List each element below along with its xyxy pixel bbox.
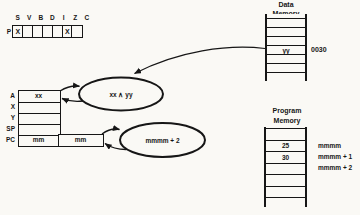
memory-rung bbox=[267, 63, 305, 64]
flag-name-c: C bbox=[81, 14, 93, 21]
arrow-and-to-a bbox=[62, 99, 83, 102]
memory-rung bbox=[266, 174, 305, 175]
data-memory-ladder: yy bbox=[265, 14, 307, 81]
register-label-a: A bbox=[0, 92, 15, 99]
program-memory-address-1: mmmm + 1 bbox=[318, 153, 352, 160]
memory-rung bbox=[266, 151, 305, 152]
register-pc-low: mm bbox=[59, 136, 102, 143]
pc-increment-label: mmmm + 2 bbox=[120, 137, 205, 144]
flag-name-s: S bbox=[12, 14, 24, 21]
register-label-y: Y bbox=[0, 114, 15, 121]
memory-rung bbox=[266, 197, 305, 198]
program-memory-cell-operand: 30 bbox=[266, 154, 305, 161]
memory-rung bbox=[267, 54, 305, 55]
memory-rung bbox=[267, 72, 305, 73]
flag-name-v: V bbox=[24, 14, 36, 21]
and-operation-label: xx ∧ yy bbox=[79, 91, 163, 98]
flag-name-d: D bbox=[47, 14, 59, 21]
program-memory-address-0: mmmm bbox=[318, 142, 341, 149]
register-label-pc: PC bbox=[0, 136, 15, 143]
flag-cell-c bbox=[71, 25, 83, 38]
data-memory-address: 0030 bbox=[311, 46, 337, 54]
arrow-pc-to-increment bbox=[102, 129, 120, 134]
flag-name-z: Z bbox=[70, 14, 82, 21]
arrow-increment-to-pc bbox=[105, 144, 126, 150]
memory-rung bbox=[266, 163, 305, 164]
data-memory-cell-yy: yy bbox=[267, 47, 305, 54]
register-label-sp: SP bbox=[0, 125, 15, 132]
program-memory-title-line2: Memory bbox=[258, 117, 316, 124]
program-memory-ladder: 25 30 bbox=[264, 127, 307, 207]
register-divider bbox=[19, 124, 60, 125]
memory-rung bbox=[267, 36, 305, 37]
flag-name-i: I bbox=[58, 14, 70, 21]
memory-rung bbox=[266, 140, 305, 141]
flag-cell-row: X X bbox=[12, 25, 83, 38]
register-divider bbox=[19, 113, 60, 114]
memory-rung bbox=[266, 186, 305, 187]
arrow-data-memory-to-and bbox=[135, 47, 266, 73]
program-memory-cell-opcode: 25 bbox=[266, 142, 305, 149]
register-a-value: xx bbox=[18, 92, 59, 99]
register-label-x: X bbox=[0, 103, 15, 110]
program-memory-address-2: mmmm + 2 bbox=[318, 164, 352, 171]
cpu-instruction-diagram: S V B D I Z C P X X A X Y SP PC xx mm mm… bbox=[0, 0, 360, 215]
register-pc-high: mm bbox=[18, 136, 59, 143]
flag-register-label: P bbox=[2, 28, 11, 35]
memory-rung bbox=[266, 128, 305, 129]
memory-rung bbox=[267, 27, 305, 28]
data-memory-title-line1: Data bbox=[258, 1, 314, 8]
flag-name-b: B bbox=[35, 14, 47, 21]
register-divider bbox=[19, 102, 60, 103]
arrow-a-to-and bbox=[60, 86, 80, 91]
program-memory-title-line1: Program bbox=[258, 107, 316, 114]
memory-rung bbox=[267, 18, 305, 19]
